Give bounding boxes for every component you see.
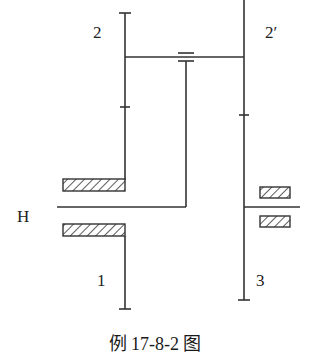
figure-caption: 例 17-8-2 图 [0,329,310,355]
gear-2-prime-line [238,0,250,300]
label-gear-3: 3 [256,272,265,289]
gear-2-line [119,13,131,180]
label-gear-2: 2 [93,24,102,41]
label-gear-2-prime: 2′ [265,24,277,41]
gear-1-line [119,236,131,309]
label-gear-1: 1 [97,272,106,289]
gear-train-diagram [0,0,310,357]
label-carrier-h: H [17,208,29,225]
